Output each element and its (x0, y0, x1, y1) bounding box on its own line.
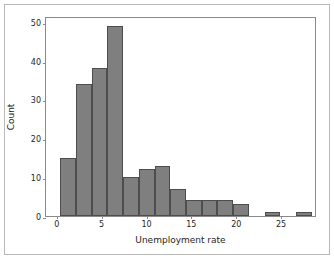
y-tick-mark (43, 218, 46, 219)
histogram-bar (155, 166, 171, 216)
x-axis-label: Unemployment rate (45, 236, 316, 245)
x-tick-label: 10 (141, 221, 151, 229)
bars-layer (46, 18, 315, 216)
histogram-bar (60, 158, 76, 216)
x-tick-label: 20 (231, 221, 241, 229)
plot-area: 01020304050 0510152025 (45, 17, 316, 217)
x-tick-label: 15 (186, 221, 196, 229)
histogram-bar (202, 200, 218, 216)
x-tick-mark (147, 216, 148, 219)
histogram-figure: 01020304050 0510152025 Count Unemploymen… (0, 0, 334, 267)
y-tick-label: 20 (31, 136, 41, 144)
x-tick-mark (191, 216, 192, 219)
x-tick-mark (102, 216, 103, 219)
x-tick-label: 0 (54, 221, 59, 229)
y-tick-label: 50 (31, 20, 41, 28)
x-tick-mark (281, 216, 282, 219)
histogram-bar (76, 84, 92, 216)
y-tick-mark (43, 140, 46, 141)
histogram-bar (233, 204, 249, 216)
x-tick-label: 25 (276, 221, 286, 229)
x-tick-mark (236, 216, 237, 219)
y-tick-label: 0 (36, 214, 41, 222)
y-tick-mark (43, 101, 46, 102)
y-tick-mark (43, 179, 46, 180)
y-tick-mark (43, 63, 46, 64)
histogram-bar (296, 212, 312, 216)
x-tick-label: 5 (99, 221, 104, 229)
x-tick-mark (57, 216, 58, 219)
histogram-bar (139, 169, 155, 216)
histogram-bar (107, 26, 123, 216)
histogram-bar (92, 68, 108, 216)
histogram-bar (123, 177, 139, 216)
histogram-bar (265, 212, 281, 216)
y-tick-label: 10 (31, 175, 41, 183)
histogram-bar (186, 200, 202, 216)
y-tick-label: 40 (31, 59, 41, 67)
histogram-bar (217, 200, 233, 216)
y-axis-label: Count (7, 104, 16, 131)
y-tick-label: 30 (31, 97, 41, 105)
histogram-bar (170, 189, 186, 216)
y-tick-mark (43, 24, 46, 25)
